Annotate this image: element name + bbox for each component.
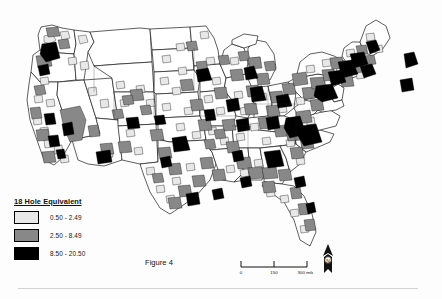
legend-swatch-low bbox=[14, 211, 39, 224]
map-legend: 18 Hole Equivalent 0.50 - 2.49 2.50 - 8.… bbox=[14, 197, 132, 265]
bottom-divider bbox=[18, 288, 418, 289]
legend-item-high: 8.50 - 20.50 bbox=[14, 247, 132, 260]
scale-bar: 0 150 300 miles bbox=[239, 258, 313, 276]
legend-title: 18 Hole Equivalent bbox=[14, 197, 132, 206]
legend-item-low: 0.50 - 2.49 bbox=[14, 211, 132, 224]
legend-label-high: 8.50 - 20.50 bbox=[50, 250, 85, 257]
figure-caption: Figure 4 bbox=[145, 258, 173, 267]
legend-label-mid: 2.50 - 8.49 bbox=[50, 232, 82, 239]
scale-tick-mid: 150 bbox=[270, 270, 278, 275]
figure-page: .st{fill:#ffffff;stroke:#1a1a1a;stroke-w… bbox=[0, 0, 442, 299]
north-arrow-label: N bbox=[326, 258, 330, 264]
scale-bar-svg: 0 150 300 miles bbox=[239, 258, 313, 276]
north-arrow-svg: N bbox=[318, 243, 338, 279]
legend-swatch-mid bbox=[14, 229, 39, 242]
north-arrow: N bbox=[318, 243, 338, 279]
scale-tick-min: 0 bbox=[240, 270, 243, 275]
legend-swatch-high bbox=[14, 247, 39, 260]
scale-tick-max: 300 miles bbox=[298, 270, 313, 275]
legend-label-low: 0.50 - 2.49 bbox=[50, 214, 82, 221]
legend-item-mid: 2.50 - 8.49 bbox=[14, 229, 132, 242]
